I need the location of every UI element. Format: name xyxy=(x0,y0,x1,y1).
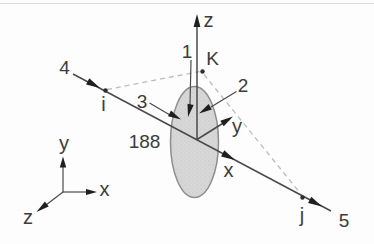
face-5-label: 5 xyxy=(339,210,350,231)
face-2-label: 2 xyxy=(238,75,249,96)
beam-element-figure: z 1 K 2 4 i 3 188 y x j 5 y x z xyxy=(0,0,374,244)
global-z-axis-arrowhead-icon xyxy=(37,202,49,212)
dashed-line-i-to-k xyxy=(107,72,200,90)
global-x-axis-label: x xyxy=(100,178,110,200)
element-y-axis-label: y xyxy=(232,115,242,137)
element-z-axis-label: z xyxy=(204,9,214,31)
global-y-axis-arrowhead-icon xyxy=(60,157,66,168)
node-i-label: i xyxy=(101,93,105,115)
element-number-label: 188 xyxy=(129,131,161,152)
face-1-label: 1 xyxy=(182,41,193,62)
global-z-axis-label: z xyxy=(23,206,33,228)
element-z-axis-arrowhead-icon xyxy=(194,14,201,27)
cross-section-ellipse xyxy=(171,87,219,198)
element-x-axis-label: x xyxy=(224,159,234,181)
face-2-leader-line xyxy=(211,92,237,108)
face-3-leader-line xyxy=(150,103,171,115)
orientation-node-k-label: K xyxy=(206,48,219,69)
node-j-dot xyxy=(300,195,304,199)
node-j-label: j xyxy=(299,204,304,226)
face-5-arrowhead-icon xyxy=(308,197,322,207)
face-4-arrowhead-icon xyxy=(86,78,100,88)
global-x-axis-arrowhead-icon xyxy=(86,189,97,195)
face-4-label: 4 xyxy=(59,57,70,78)
orientation-node-k-dot xyxy=(200,69,204,73)
global-y-axis-label: y xyxy=(59,132,69,154)
face-3-label: 3 xyxy=(137,91,148,112)
diagram-canvas: z 1 K 2 4 i 3 188 y x j 5 y x z xyxy=(0,0,374,244)
